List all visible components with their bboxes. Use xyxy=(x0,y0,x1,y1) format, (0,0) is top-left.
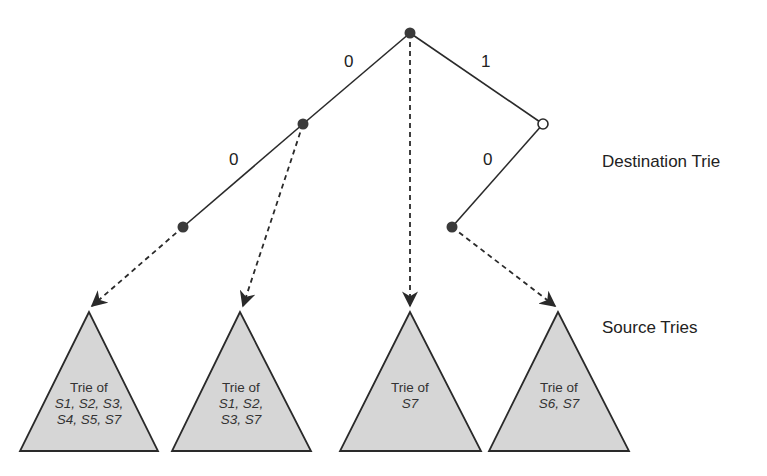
trie-nodes xyxy=(178,28,458,233)
trie-members: S7 xyxy=(350,396,470,412)
source-trie-3: Trie of S7 xyxy=(350,380,470,412)
trie-title: Trie of xyxy=(181,380,301,396)
edge-label-left-left: 0 xyxy=(229,150,238,170)
node-1-empty xyxy=(538,119,548,129)
source-trie-2: Trie of S1, S2, S3, S7 xyxy=(181,380,301,428)
edge-label-root-left: 0 xyxy=(344,52,353,72)
source-tries-label: Source Tries xyxy=(602,318,697,338)
trie-members: S6, S7 xyxy=(499,396,619,412)
node-0 xyxy=(298,119,309,130)
trie-members: S4, S5, S7 xyxy=(29,412,149,428)
trie-title: Trie of xyxy=(29,380,149,396)
source-trie-1: Trie of S1, S2, S3, S4, S5, S7 xyxy=(29,380,149,428)
trie-members: S1, S2, S3, xyxy=(29,396,149,412)
trie-title: Trie of xyxy=(350,380,470,396)
edge-label-root-right: 1 xyxy=(481,52,490,72)
trie-members: S3, S7 xyxy=(181,412,301,428)
destination-trie-label: Destination Trie xyxy=(602,152,720,172)
node-00 xyxy=(178,222,189,233)
trie-members: S1, S2, xyxy=(181,396,301,412)
edge-label-right-left: 0 xyxy=(483,150,492,170)
source-trie-4: Trie of S6, S7 xyxy=(499,380,619,412)
trie-title: Trie of xyxy=(499,380,619,396)
node-10 xyxy=(447,222,458,233)
root-node xyxy=(405,28,416,39)
